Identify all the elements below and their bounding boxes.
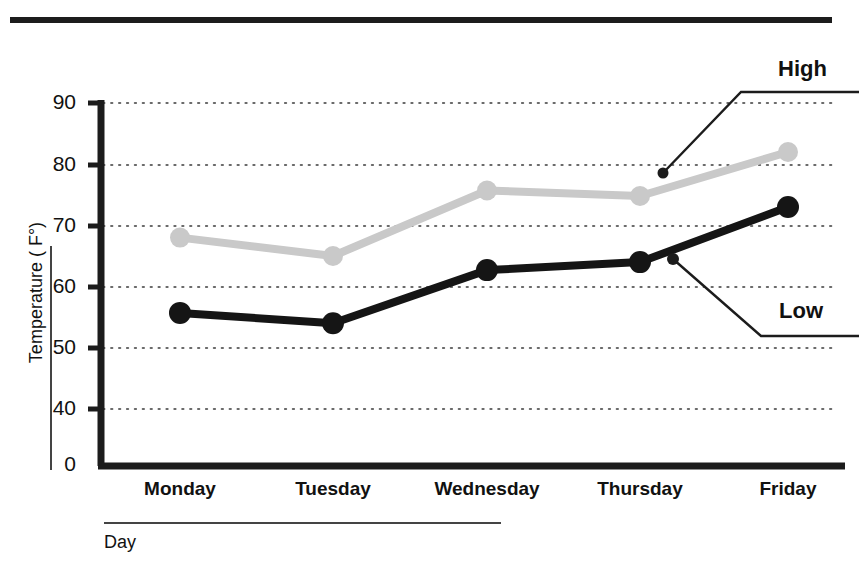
annotation-leader-low	[667, 253, 859, 336]
x-axis-tick-label-monday: Monday	[144, 478, 216, 500]
y-axis-title-rule	[50, 246, 52, 470]
annotation-anchor-low	[667, 253, 679, 265]
data-point-high-thursday	[630, 186, 650, 206]
x-axis-tick-label-tuesday: Tuesday	[295, 478, 371, 500]
data-point-high-friday	[778, 142, 798, 162]
data-point-high-monday	[170, 228, 190, 248]
data-point-low-tuesday	[322, 312, 344, 334]
y-axis-tick-label: 90	[30, 90, 76, 114]
data-point-low-friday	[777, 196, 799, 218]
y-axis-title: Temperature ( F°)	[26, 168, 47, 418]
x-axis-title: Day	[104, 532, 136, 553]
data-point-high-wednesday	[477, 181, 497, 201]
annotation-label-high: High	[778, 56, 827, 82]
x-axis-tick-label-thursday: Thursday	[597, 478, 683, 500]
annotation-anchor-high	[658, 168, 669, 179]
x-axis-title-rule	[104, 522, 501, 524]
x-axis-tick-label-wednesday: Wednesday	[434, 478, 539, 500]
gridlines	[103, 103, 836, 409]
y-axis-tick-label: 0	[30, 452, 76, 476]
line-chart-plot	[0, 0, 859, 577]
data-point-high-tuesday	[323, 246, 343, 266]
data-point-low-wednesday	[476, 259, 498, 281]
data-point-low-monday	[169, 302, 191, 324]
annotation-label-low: Low	[779, 298, 823, 324]
series-markers-low	[169, 196, 799, 334]
chart-root: 90 80 70 60 50 40 0 Monday Tuesday Wedne…	[0, 0, 859, 577]
x-axis-tick-label-friday: Friday	[759, 478, 816, 500]
data-point-low-thursday	[629, 251, 651, 273]
